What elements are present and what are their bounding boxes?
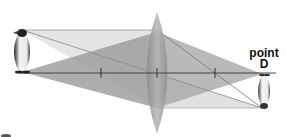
corner-mark [1, 134, 11, 137]
object-penguin [13, 29, 30, 74]
point-d-label: point D [243, 48, 285, 70]
image-penguin [258, 74, 270, 109]
lens-ray-diagram: point D [0, 0, 287, 137]
point-label-line2: D [243, 59, 285, 70]
